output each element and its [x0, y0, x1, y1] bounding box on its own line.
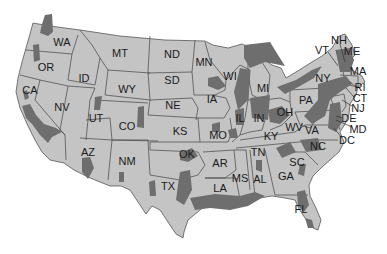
state-label-oh: OH: [277, 107, 294, 118]
state-label-ga: GA: [278, 171, 294, 182]
state-label-ut: UT: [89, 113, 104, 124]
state-label-va: VA: [305, 125, 319, 136]
state-label-wv: WV: [285, 122, 303, 133]
state-label-fl: FL: [295, 204, 308, 215]
state-label-ma: MA: [350, 66, 367, 77]
state-label-sd: SD: [164, 75, 179, 86]
state-label-ok: OK: [179, 149, 195, 160]
state-label-me: ME: [344, 46, 361, 57]
state-label-mn: MN: [195, 57, 212, 68]
state-label-co: CO: [119, 121, 136, 132]
state-label-vt: VT: [315, 45, 329, 56]
state-label-or: OR: [38, 62, 55, 73]
state-label-wa: WA: [53, 37, 70, 48]
state-label-in: IN: [254, 113, 265, 124]
state-label-wy: WY: [118, 84, 136, 95]
state-label-id: ID: [79, 73, 90, 84]
state-label-al: AL: [253, 174, 266, 185]
state-label-pa: PA: [299, 95, 313, 106]
state-label-dc: DC: [339, 135, 355, 146]
state-label-sc: SC: [289, 157, 304, 168]
state-label-ks: KS: [173, 126, 188, 137]
state-label-mt: MT: [112, 48, 128, 59]
state-label-wi: WI: [223, 71, 236, 82]
state-label-ca: CA: [22, 85, 37, 96]
state-label-nd: ND: [164, 49, 180, 60]
state-label-ar: AR: [212, 158, 227, 169]
state-label-nc: NC: [310, 141, 326, 152]
state-label-tx: TX: [161, 181, 175, 192]
state-label-ny: NY: [315, 73, 330, 84]
state-label-az: AZ: [81, 147, 95, 158]
state-label-ky: KY: [264, 131, 279, 142]
state-label-ia: IA: [207, 94, 217, 105]
state-label-ne: NE: [165, 100, 180, 111]
state-label-ms: MS: [232, 173, 249, 184]
state-label-il: IL: [235, 113, 244, 124]
state-label-nv: NV: [54, 102, 69, 113]
state-label-mo: MO: [209, 130, 227, 141]
state-label-mi: MI: [257, 83, 269, 94]
state-label-nm: NM: [118, 156, 135, 167]
state-label-tn: TN: [251, 147, 266, 158]
state-label-la: LA: [213, 183, 226, 194]
